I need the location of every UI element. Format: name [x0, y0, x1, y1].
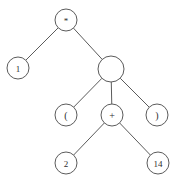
tree-edge: [120, 123, 151, 155]
tree-edges: [26, 28, 151, 155]
tree-edge: [73, 28, 102, 59]
tree-node: (: [55, 104, 77, 126]
tree-node-label: +: [109, 110, 115, 121]
tree-edge: [26, 28, 58, 60]
tree-canvas: *1(+)214: [0, 0, 180, 184]
tree-node: +: [101, 104, 123, 126]
tree-node-label: *: [64, 16, 69, 26]
tree-edge: [120, 78, 149, 107]
tree-node-label: ): [155, 110, 158, 122]
tree-node: 1: [7, 57, 29, 79]
tree-node-circle: [98, 56, 124, 82]
tree-node-label: 2: [64, 159, 69, 169]
tree-node: ): [146, 104, 168, 126]
tree-edge: [74, 123, 105, 155]
tree-node-label: 14: [154, 159, 164, 169]
tree-node: 14: [147, 152, 169, 174]
tree-node: [98, 56, 124, 82]
tree-node: 2: [55, 152, 77, 174]
parse-tree-diagram: *1(+)214: [0, 0, 180, 184]
tree-edge: [74, 78, 102, 107]
tree-node: *: [55, 9, 77, 31]
tree-node-label: 1: [16, 64, 21, 74]
